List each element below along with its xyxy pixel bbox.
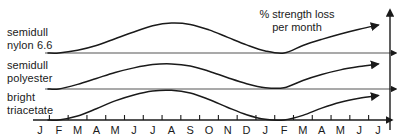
x-axis-month-label: A — [93, 124, 101, 136]
x-axis-month-label: F — [55, 124, 62, 136]
x-tick-group — [49, 115, 368, 120]
x-axis-month-label: J — [375, 124, 381, 136]
x-axis-month-label: J — [356, 124, 362, 136]
x-axis-month-label: N — [224, 124, 232, 136]
x-axis-month-label: A — [318, 124, 326, 136]
x-axis-month-label: A — [168, 124, 176, 136]
x-axis-month-label: D — [243, 124, 251, 136]
x-axis-month-label: J — [37, 124, 43, 136]
x-axis-month-label: F — [281, 124, 288, 136]
chart-figure: semidullnylon 6.6 semidullpolyester brig… — [0, 0, 414, 137]
x-axis-month-label: J — [263, 124, 269, 136]
x-axis-month-label: J — [131, 124, 137, 136]
x-label-group: JFMAMJJASONDJFMAMJJ — [37, 124, 381, 136]
plot-area: JFMAMJJASONDJFMAMJJ — [0, 0, 414, 137]
curve-series-0 — [48, 23, 378, 53]
x-axis-month-label: M — [336, 124, 345, 136]
x-axis-month-label: O — [205, 124, 214, 136]
curves-group — [48, 23, 378, 120]
x-axis-month-label: M — [111, 124, 120, 136]
x-axis-month-label: J — [150, 124, 156, 136]
x-axis-month-label: M — [298, 124, 307, 136]
curve-series-1 — [48, 64, 378, 90]
curve-series-2 — [48, 90, 378, 120]
baselines-group — [45, 53, 396, 89]
x-axis-month-label: M — [73, 124, 82, 136]
x-axis-month-label: S — [187, 124, 194, 136]
